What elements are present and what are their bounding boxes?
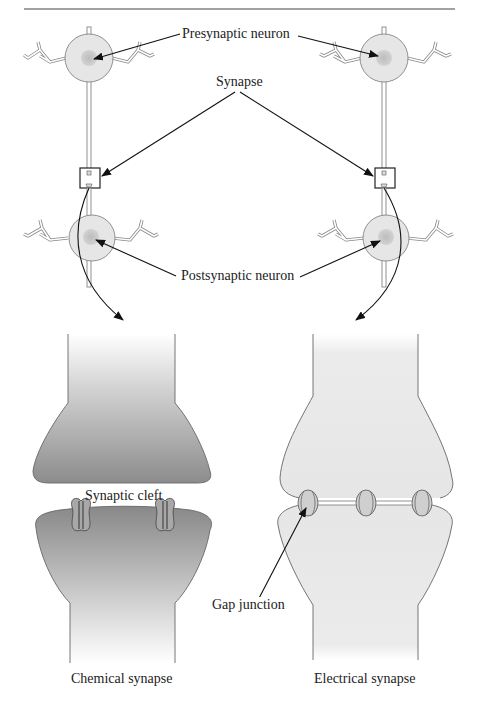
- label-synaptic-cleft: Synaptic cleft: [83, 488, 164, 504]
- right-presynaptic-neuron: [320, 27, 451, 170]
- label-presynaptic-neuron: Presynaptic neuron: [180, 26, 292, 42]
- left-postsynaptic-neuron: [24, 188, 158, 287]
- label-chemical-synapse: Chemical synapse: [69, 671, 174, 687]
- label-electrical-synapse: Electrical synapse: [312, 671, 417, 687]
- gap-junction-3: [412, 490, 432, 516]
- left-synapse-box: [80, 168, 100, 188]
- label-gap-junction: Gap junction: [210, 597, 287, 613]
- label-postsynaptic-neuron: Postsynaptic neuron: [179, 268, 296, 284]
- gap-junction-2: [356, 490, 376, 516]
- right-synapse-box: [375, 168, 395, 188]
- gap-junction-1: [298, 490, 318, 516]
- label-synapse: Synapse: [214, 74, 265, 90]
- left-presynaptic-neuron: [24, 27, 154, 170]
- right-postsynaptic-neuron: [318, 188, 453, 287]
